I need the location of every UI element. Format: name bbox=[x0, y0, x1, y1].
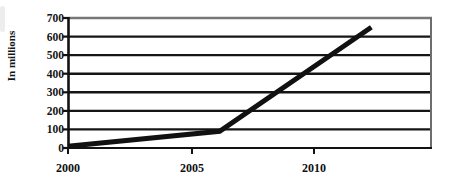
line-chart: In millions 700 600 500 400 300 200 100 … bbox=[0, 0, 456, 188]
x-tick-label-2010: 2010 bbox=[284, 162, 344, 174]
x-tick-label-2005: 2005 bbox=[162, 162, 222, 174]
plot-area bbox=[0, 0, 456, 188]
x-tick-label-2000: 2000 bbox=[38, 162, 98, 174]
